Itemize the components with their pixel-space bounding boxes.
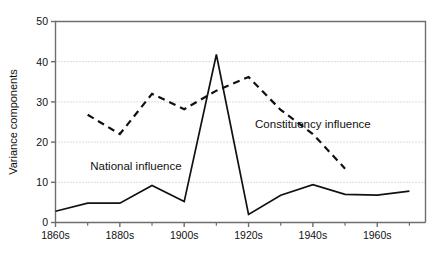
- y-tick-label-50: 50: [36, 15, 48, 27]
- x-tick-label-1920: 1920s: [234, 229, 263, 241]
- x-tick-label-1960: 1960s: [363, 229, 392, 241]
- constituency-influence-label: Constituency influence: [255, 118, 371, 130]
- x-tick-label-1900: 1900s: [170, 229, 199, 241]
- y-axis-title: Variance components: [7, 69, 19, 175]
- national-influence-label: National influence: [90, 160, 181, 172]
- y-tick-label-0: 0: [42, 216, 48, 228]
- x-tick-label-1860: 1860s: [41, 229, 70, 241]
- x-tick-label-1940: 1940s: [299, 229, 328, 241]
- chart-canvas: 010203040501860s1880s1900s1920s1940s1960…: [0, 0, 442, 257]
- series-national-influence: [56, 54, 410, 214]
- x-tick-label-1880: 1880s: [106, 229, 135, 241]
- y-tick-label-10: 10: [36, 176, 48, 188]
- y-tick-label-30: 30: [36, 96, 48, 108]
- y-tick-label-20: 20: [36, 136, 48, 148]
- y-tick-label-40: 40: [36, 56, 48, 68]
- variance-components-chart: 010203040501860s1880s1900s1920s1940s1960…: [0, 0, 442, 257]
